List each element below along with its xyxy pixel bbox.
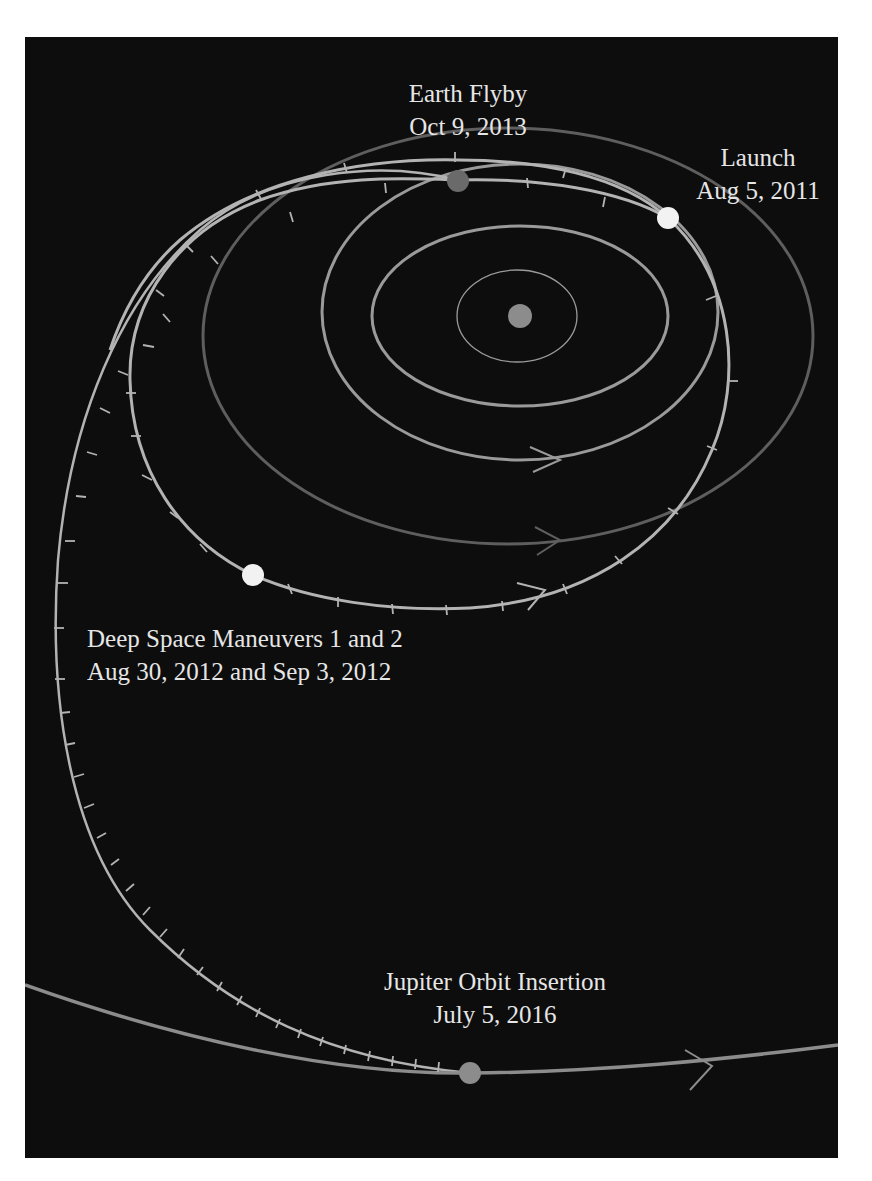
event-title: Deep Space Maneuvers 1 and 2	[87, 622, 403, 655]
trajectory-tick-marks	[54, 152, 738, 1072]
sun-icon	[508, 304, 532, 328]
jupiter-arrival-marker[interactable]	[459, 1062, 481, 1084]
earth-flyby-marker[interactable]	[447, 170, 469, 192]
jupiter-orbit-insertion-label: Jupiter Orbit Insertion July 5, 2016	[345, 965, 645, 1031]
event-date: Aug 30, 2012 and Sep 3, 2012	[87, 655, 403, 688]
event-title: Jupiter Orbit Insertion	[345, 965, 645, 998]
earth-flyby-label: Earth Flyby Oct 9, 2013	[373, 77, 563, 143]
dsm-label: Deep Space Maneuvers 1 and 2 Aug 30, 201…	[87, 622, 403, 688]
event-date: Oct 9, 2013	[373, 110, 563, 143]
dsm-marker[interactable]	[242, 564, 264, 586]
jupiter-orbit-arrow	[685, 1050, 712, 1090]
event-title: Launch	[673, 141, 838, 174]
event-date: July 5, 2016	[345, 998, 645, 1031]
launch-label: Launch Aug 5, 2011	[673, 141, 838, 207]
event-title: Earth Flyby	[373, 77, 563, 110]
launch-marker[interactable]	[657, 207, 679, 229]
event-date: Aug 5, 2011	[673, 174, 838, 207]
diagram-panel: Earth Flyby Oct 9, 2013 Launch Aug 5, 20…	[25, 37, 838, 1158]
